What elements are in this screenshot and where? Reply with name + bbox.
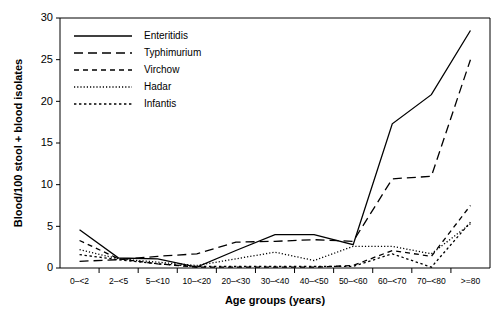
x-tick-label: 5–<10 xyxy=(146,276,170,286)
x-tick-label: 50–<60 xyxy=(339,276,368,286)
chart-container: 051015202530Blood/100 stool + blood isol… xyxy=(0,0,504,317)
legend-label-typhimurium: Typhimurium xyxy=(144,47,201,58)
y-axis-title: Blood/100 stool + blood isolates xyxy=(12,59,24,227)
x-tick-label: >=80 xyxy=(461,276,481,286)
legend-label-virchow: Virchow xyxy=(144,64,180,75)
legend-label-hadar: Hadar xyxy=(144,81,172,92)
line-chart: 051015202530Blood/100 stool + blood isol… xyxy=(0,0,504,317)
x-tick-label: 2–<5 xyxy=(109,276,128,286)
series-line-infantis xyxy=(80,222,471,267)
y-tick-label: 10 xyxy=(41,178,53,190)
legend-label-enteritidis: Enteritidis xyxy=(144,30,188,41)
x-tick-label: 30–<40 xyxy=(261,276,290,286)
y-tick-label: 20 xyxy=(41,95,53,107)
series-line-hadar xyxy=(80,224,471,266)
y-tick-label: 5 xyxy=(47,220,53,232)
x-tick-label: 60–<70 xyxy=(378,276,407,286)
y-tick-label: 0 xyxy=(47,261,53,273)
x-tick-label: 10–<20 xyxy=(183,276,212,286)
series-line-enteritidis xyxy=(80,31,471,268)
x-tick-label: 40–<50 xyxy=(300,276,329,286)
legend-label-infantis: Infantis xyxy=(144,98,176,109)
x-axis-title: Age groups (years) xyxy=(225,294,326,306)
y-tick-label: 15 xyxy=(41,136,53,148)
x-tick-label: 20–<30 xyxy=(222,276,251,286)
y-tick-label: 25 xyxy=(41,53,53,65)
x-tick-label: 0–<2 xyxy=(70,276,89,286)
x-tick-label: 70–<80 xyxy=(417,276,446,286)
plot-frame xyxy=(60,18,490,268)
series-line-typhimurium xyxy=(80,60,471,262)
y-tick-label: 30 xyxy=(41,11,53,23)
